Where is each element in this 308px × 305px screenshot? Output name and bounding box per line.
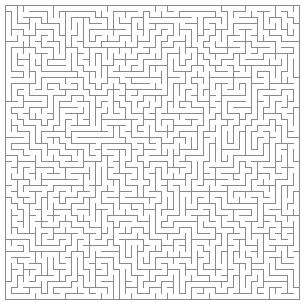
- maze-page: [0, 0, 308, 305]
- maze-background: [0, 0, 308, 305]
- maze-canvas[interactable]: [0, 0, 308, 305]
- maze-graphic: [0, 0, 308, 305]
